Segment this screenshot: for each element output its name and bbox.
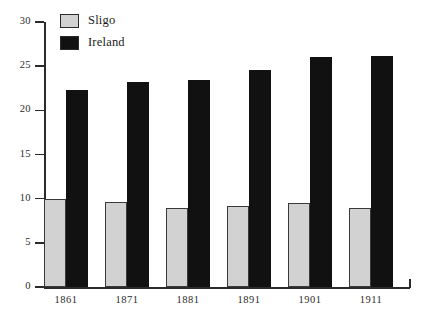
bar-sligo-1861 <box>44 199 66 287</box>
y-tick-5 <box>35 242 44 244</box>
bar-group-1891 <box>227 22 271 287</box>
y-tick-30 <box>35 21 44 23</box>
bar-sligo-1911 <box>349 208 371 287</box>
bar-group-1901 <box>288 22 332 287</box>
bar-ireland-1871 <box>127 82 149 287</box>
y-tick-label-15: 15 <box>9 148 31 159</box>
y-tick-25 <box>35 65 44 67</box>
bar-sligo-1901 <box>288 203 310 287</box>
bar-ireland-1861 <box>66 90 88 287</box>
bar-group-1861 <box>44 22 88 287</box>
y-tick-10 <box>35 198 44 200</box>
bar-group-1871 <box>105 22 149 287</box>
bar-group-1881 <box>166 22 210 287</box>
x-tick-label-1881: 1881 <box>153 294 223 305</box>
bar-sligo-1891 <box>227 206 249 287</box>
bar-ireland-1911 <box>371 56 393 287</box>
bar-group-1911 <box>349 22 393 287</box>
y-tick-label-0: 0 <box>9 280 31 291</box>
plot-area <box>44 22 410 287</box>
y-axis-ticks: 051015202530 <box>0 0 44 320</box>
y-tick-label-30: 30 <box>9 15 31 26</box>
x-tick-label-1901: 1901 <box>275 294 345 305</box>
bar-sligo-1871 <box>105 202 127 287</box>
bar-sligo-1881 <box>166 208 188 288</box>
y-tick-20 <box>35 110 44 112</box>
x-tick-label-1891: 1891 <box>214 294 284 305</box>
bar-ireland-1891 <box>249 70 271 287</box>
y-tick-label-20: 20 <box>9 103 31 114</box>
x-axis-line <box>44 287 410 289</box>
bar-ireland-1881 <box>188 80 210 287</box>
y-tick-label-5: 5 <box>9 236 31 247</box>
y-tick-label-25: 25 <box>9 59 31 70</box>
x-tick-label-1911: 1911 <box>336 294 406 305</box>
y-tick-15 <box>35 154 44 156</box>
bar-ireland-1901 <box>310 57 332 287</box>
x-tick-label-1861: 1861 <box>31 294 101 305</box>
x-tick-label-1871: 1871 <box>92 294 162 305</box>
y-tick-0 <box>35 286 44 288</box>
y-tick-label-10: 10 <box>9 192 31 203</box>
bar-chart: Sligo Ireland 051015202530 1861187118811… <box>0 0 428 320</box>
